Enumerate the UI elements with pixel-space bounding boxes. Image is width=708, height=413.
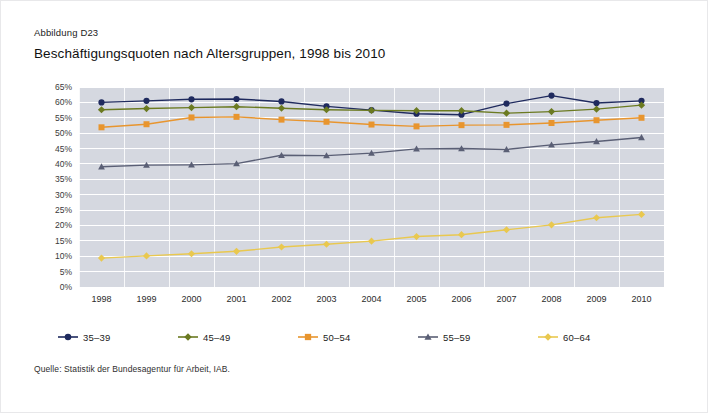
x-axis-tick-label: 2004 <box>361 294 381 304</box>
x-axis-tick-label: 2000 <box>181 294 201 304</box>
chart-area: 0%5%10%15%20%25%30%35%40%45%50%55%60%65%… <box>29 79 677 319</box>
data-point <box>414 123 420 129</box>
x-axis-tick-label: 2001 <box>226 294 246 304</box>
data-point <box>189 114 195 120</box>
y-axis-tick-label: 10% <box>55 251 72 261</box>
data-point <box>278 98 284 104</box>
data-point <box>324 119 330 125</box>
legend-item-55-59[interactable]: 55–59 <box>417 331 537 343</box>
x-axis-tick-label: 2002 <box>271 294 291 304</box>
y-axis-tick-label: 25% <box>55 205 72 215</box>
legend-item-45-49[interactable]: 45–49 <box>177 331 297 343</box>
legend-marker-icon <box>537 331 559 343</box>
data-point <box>639 115 645 121</box>
legend-label: 50–54 <box>323 332 350 343</box>
data-point <box>143 98 149 104</box>
x-axis-tick-label: 2010 <box>631 294 651 304</box>
data-point <box>233 96 239 102</box>
y-axis-tick-label: 65% <box>55 82 72 92</box>
y-axis-tick-label: 50% <box>55 128 72 138</box>
legend-label: 35–39 <box>83 332 110 343</box>
data-point <box>98 99 104 105</box>
y-axis-tick-label: 60% <box>55 97 72 107</box>
legend-label: 60–64 <box>563 332 590 343</box>
line-chart: 0%5%10%15%20%25%30%35%40%45%50%55%60%65%… <box>29 79 677 319</box>
x-axis-tick-label: 2006 <box>451 294 471 304</box>
x-axis-tick-label: 2005 <box>406 294 426 304</box>
y-axis-tick-label: 40% <box>55 159 72 169</box>
x-axis-tick-label: 2008 <box>541 294 561 304</box>
legend-label: 45–49 <box>203 332 230 343</box>
data-point <box>594 117 600 123</box>
y-axis-tick-label: 5% <box>60 267 73 277</box>
y-axis-tick-label: 55% <box>55 113 72 123</box>
y-axis-tick-label: 15% <box>55 236 72 246</box>
legend-marker-icon <box>417 331 439 343</box>
data-point <box>234 114 240 120</box>
y-axis-tick-label: 30% <box>55 190 72 200</box>
plot-background <box>79 87 664 287</box>
x-axis-tick-label: 2007 <box>496 294 516 304</box>
legend-marker-icon <box>297 331 319 343</box>
data-point <box>503 101 509 107</box>
data-point <box>548 93 554 99</box>
data-point <box>99 124 105 130</box>
figure-card: Abbildung D23 Beschäftigungsquoten nach … <box>0 0 708 413</box>
x-axis-tick-label: 2009 <box>586 294 606 304</box>
legend-item-50-54[interactable]: 50–54 <box>297 331 417 343</box>
source-note: Quelle: Statistik der Bundesagentur für … <box>34 364 230 374</box>
x-axis-tick-label: 1998 <box>91 294 111 304</box>
data-point <box>369 122 375 128</box>
page-title: Beschäftigungsquoten nach Altersgruppen,… <box>34 46 385 61</box>
legend-item-35-39[interactable]: 35–39 <box>57 331 177 343</box>
x-axis-tick-label: 2003 <box>316 294 336 304</box>
data-point <box>459 122 465 128</box>
x-axis-tick-label: 1999 <box>136 294 156 304</box>
y-axis-tick-label: 0% <box>60 282 73 292</box>
chart-legend: 35–3945–4950–5455–5960–64 <box>57 331 657 349</box>
data-point <box>504 122 510 128</box>
data-point <box>188 96 194 102</box>
legend-marker-icon <box>177 331 199 343</box>
legend-item-60-64[interactable]: 60–64 <box>537 331 657 343</box>
y-axis-tick-label: 45% <box>55 144 72 154</box>
data-point <box>279 117 285 123</box>
legend-marker-icon <box>57 331 79 343</box>
data-point <box>144 121 150 127</box>
y-axis-tick-label: 35% <box>55 174 72 184</box>
figure-label: Abbildung D23 <box>34 27 98 38</box>
legend-label: 55–59 <box>443 332 470 343</box>
data-point <box>593 100 599 106</box>
data-point <box>549 120 555 126</box>
y-axis-tick-label: 20% <box>55 220 72 230</box>
